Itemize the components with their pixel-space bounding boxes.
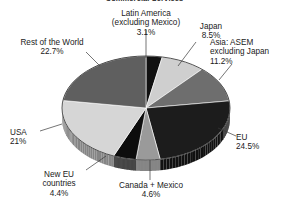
slice-label-new-eu: New EU countries 4.4% <box>28 170 90 198</box>
pie-slices <box>62 56 230 160</box>
slice-label-latin-america: Latin America (excluding Mexico) 3.1% <box>98 9 194 37</box>
slice-label-asia-asem-line1: Asia: ASEM <box>210 38 253 47</box>
slice-value-canada-mexico: 4.6% <box>108 190 194 199</box>
slice-label-usa: USA 21% <box>10 128 44 147</box>
slice-label-latin-america-line1: Latin America <box>121 9 171 18</box>
slice-label-usa-line1: USA <box>10 128 27 137</box>
slice-label-new-eu-line2: countries <box>42 179 75 188</box>
slice-label-rest-of-world-line1: Rest of the World <box>20 38 83 47</box>
slice-label-asia-asem: Asia: ASEM excluding Japan 11.2% <box>210 38 288 66</box>
slice-value-usa: 21% <box>10 137 44 146</box>
slice-value-eu: 24.5% <box>236 142 276 151</box>
slice-value-latin-america: 3.1% <box>98 28 194 37</box>
slice-label-eu: EU 24.5% <box>236 133 276 152</box>
slice-label-rest-of-world: Rest of the World 22.7% <box>4 38 100 57</box>
slice-label-eu-line1: EU <box>236 133 247 142</box>
slice-label-canada-mexico: Canada + Mexico 4.6% <box>108 181 194 200</box>
slice-label-latin-america-line2: (excluding Mexico) <box>112 18 180 27</box>
slice-label-asia-asem-line2: excluding Japan <box>210 47 269 56</box>
pie-slice <box>63 56 146 108</box>
pie-slice <box>146 101 230 159</box>
slice-value-asia-asem: 11.2% <box>210 57 288 66</box>
slice-label-new-eu-line1: New EU <box>44 170 74 179</box>
slice-value-rest-of-world: 22.7% <box>4 47 100 56</box>
slice-label-canada-mexico-line1: Canada + Mexico <box>119 181 183 190</box>
slice-label-japan-line1: Japan <box>200 22 222 31</box>
pie-chart: Commercial Services Latin America (exclu… <box>0 0 289 209</box>
slice-value-new-eu: 4.4% <box>28 189 90 198</box>
